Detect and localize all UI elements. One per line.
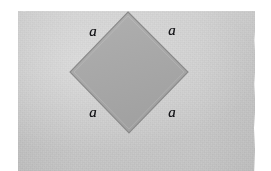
- diamond-shape-layer: [0, 0, 271, 171]
- side-label-top-left: a: [89, 24, 97, 39]
- side-label-bottom-right: a: [168, 105, 176, 120]
- scan-right-margin: [253, 0, 271, 171]
- figure-root: a a a a: [0, 0, 271, 171]
- side-label-top-right: a: [168, 23, 176, 38]
- side-label-bottom-left: a: [89, 105, 97, 120]
